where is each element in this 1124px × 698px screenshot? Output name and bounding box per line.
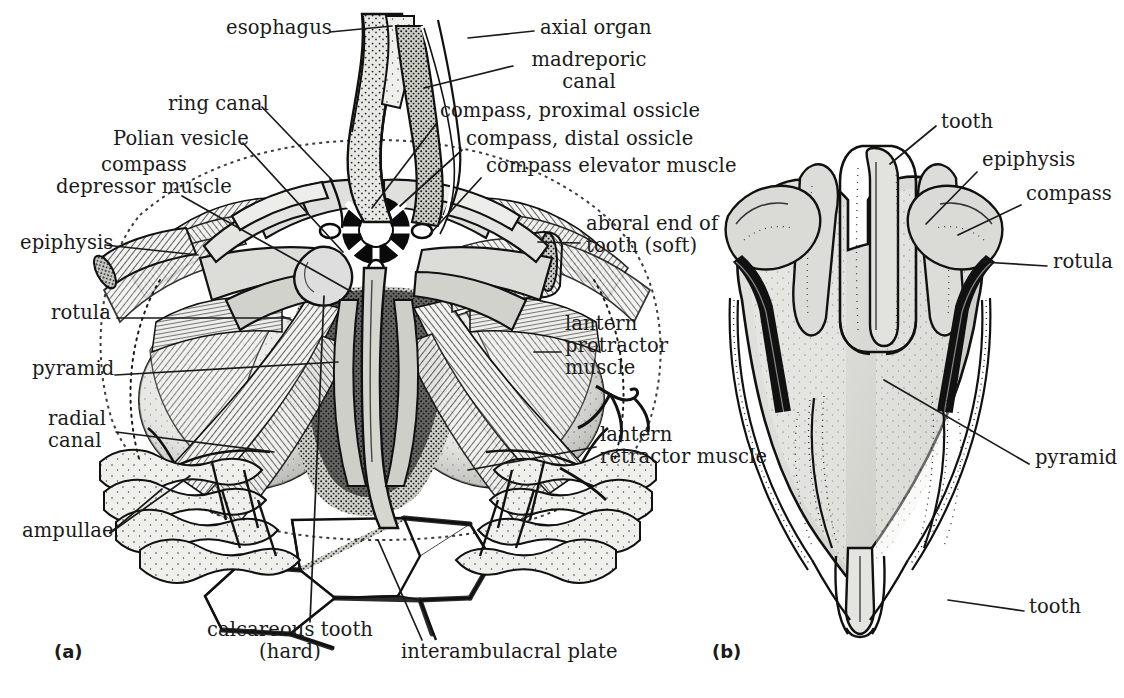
label-tooth-oral-b: tooth <box>1029 596 1081 618</box>
label-esophagus: esophagus <box>226 17 332 39</box>
label-epiphysis-a: epiphysis <box>20 232 113 254</box>
label-compass-proximal-ossicle: compass, proximal ossicle <box>440 100 700 122</box>
label-interambulacral-plate: interambulacral plate <box>401 641 618 663</box>
label-aboral-end-of-tooth: aboral end of tooth (soft) <box>586 213 718 257</box>
label-ring-canal: ring canal <box>168 93 269 115</box>
label-compass-distal-ossicle: compass, distal ossicle <box>466 128 693 150</box>
figure-root: esophagus ring canal Polian vesicle comp… <box>0 0 1124 698</box>
label-rotula-a: rotula <box>51 302 111 324</box>
label-calcareous-tooth: calcareous tooth (hard) <box>200 619 380 663</box>
label-pyramid-b: pyramid <box>1035 447 1117 469</box>
panel-label-a: (a) <box>54 641 83 662</box>
label-lantern-protractor-muscle: lantern protractor muscle <box>565 313 668 378</box>
label-tooth-aboral-b: tooth <box>941 111 993 133</box>
label-radial-canal: radial canal <box>48 408 106 452</box>
label-compass-b: compass <box>1026 183 1112 205</box>
label-compass-elevator-muscle: compass elevator muscle <box>486 155 737 177</box>
label-ampullae: ampullae <box>22 520 114 542</box>
label-rotula-b: rotula <box>1053 251 1113 273</box>
label-lantern-retractor-muscle: lantern retractor muscle <box>600 424 767 468</box>
label-madreporic-canal: madreporic canal <box>519 49 659 93</box>
label-compass-depressor-muscle: compass depressor muscle <box>4 154 284 198</box>
panel-label-b: (b) <box>712 641 741 662</box>
leader-aboral-end-of-tooth <box>538 242 580 243</box>
label-polian-vesicle: Polian vesicle <box>113 128 249 150</box>
label-epiphysis-b: epiphysis <box>982 149 1075 171</box>
label-pyramid-a: pyramid <box>32 358 114 380</box>
label-axial-organ: axial organ <box>540 17 652 39</box>
